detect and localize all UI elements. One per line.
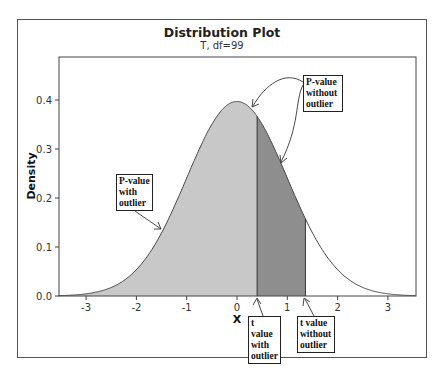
x-tick-label: 1	[284, 302, 290, 313]
x-axis-ticks: -3-2-10123	[81, 296, 391, 313]
y-tick-label: 0.0	[36, 291, 52, 302]
x-axis-label: X	[233, 313, 242, 326]
arrow-p-with	[135, 211, 161, 229]
x-tick-label: 3	[385, 302, 391, 313]
annotation-t-value-without-outlier: t value without outlier	[297, 316, 335, 353]
shaded-regions	[58, 102, 305, 297]
y-tick-label: 0.1	[36, 242, 52, 253]
arrow-p-without-peak	[253, 78, 303, 106]
y-tick-label: 0.2	[36, 193, 52, 204]
annotation-p-value-without-outlier: P-value without outlier	[303, 75, 343, 112]
x-tick-label: 0	[234, 302, 240, 313]
shaded-region-0	[58, 102, 257, 297]
arrow-t-with	[257, 299, 263, 316]
annotation-p-value-with-outlier: P-value with outlier	[116, 174, 153, 211]
y-tick-label: 0.3	[36, 144, 52, 155]
y-axis-label: Density	[25, 152, 38, 199]
y-tick-label: 0.4	[36, 95, 52, 106]
x-tick-label: 2	[334, 302, 340, 313]
arrow-p-without-tail	[281, 85, 303, 162]
x-tick-label: -1	[182, 302, 192, 313]
plot-area: -3-2-10123 0.00.10.20.30.4 X Density	[0, 0, 444, 374]
x-tick-label: -2	[131, 302, 141, 313]
shaded-region-1	[257, 116, 305, 296]
y-axis-ticks: 0.00.10.20.30.4	[36, 95, 59, 302]
annotation-t-value-with-outlier: t value with outlier	[248, 316, 281, 364]
x-tick-label: -3	[81, 302, 91, 313]
